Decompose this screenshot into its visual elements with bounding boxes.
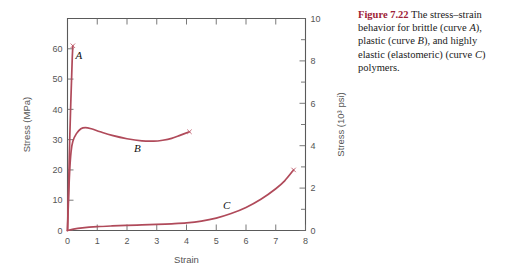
figure-container: 012345678Strain0102030405060Stress (MPa)… [0, 0, 508, 270]
y-tick-label: 60 [52, 44, 62, 54]
x-tick-label: 5 [214, 236, 219, 246]
y-tick-label-right: 6 [311, 99, 316, 109]
y-tick-label: 50 [52, 74, 62, 84]
y-tick-label-right: 2 [311, 183, 316, 193]
figure-caption-label: Figure 7.22 [358, 9, 409, 20]
y-tick-label-right: 10 [311, 14, 321, 24]
x-tick-label: 8 [303, 236, 308, 246]
y-axis-right: 0246810 [300, 14, 321, 236]
curve-label-A: A [74, 49, 82, 61]
stress-strain-chart: 012345678Strain0102030405060Stress (MPa)… [0, 0, 356, 270]
y-tick-label: 20 [52, 165, 62, 175]
figure-caption: Figure 7.22 The stress–strain behavior f… [358, 8, 504, 74]
y-tick-label: 40 [52, 105, 62, 115]
y-tick-label-right: 4 [311, 141, 316, 151]
x-tick-label: 6 [243, 236, 248, 246]
curve-label-C: C [223, 199, 231, 211]
y-tick-label: 10 [52, 195, 62, 205]
x-tick-label: 0 [65, 236, 70, 246]
y-tick-label-right: 8 [311, 56, 316, 66]
x-tick-label: 3 [154, 236, 159, 246]
x-tick-label: 2 [124, 236, 129, 246]
y-tick-label: 0 [57, 226, 62, 236]
curve-path-B [68, 128, 190, 231]
curve-label-B: B [134, 142, 141, 154]
chart-frame [68, 19, 306, 231]
y-tick-label: 30 [52, 135, 62, 145]
y-axis-title-right: Stress (10³ psi) [335, 92, 346, 156]
curve-C: C [68, 168, 296, 231]
x-tick-label: 1 [95, 236, 100, 246]
failure-marker-C [291, 168, 295, 172]
x-tick-label: 4 [184, 236, 189, 246]
curve-B: B [68, 128, 192, 231]
curve-path-C [68, 170, 294, 231]
caption-curve-ref: C [475, 49, 482, 60]
chart-plot-area: 012345678Strain0102030405060Stress (MPa)… [0, 0, 356, 270]
x-axis-title: Strain [174, 254, 199, 265]
y-axis-title: Stress (MPa) [21, 97, 32, 152]
x-tick-label: 7 [273, 236, 278, 246]
y-tick-label-right: 0 [311, 226, 316, 236]
